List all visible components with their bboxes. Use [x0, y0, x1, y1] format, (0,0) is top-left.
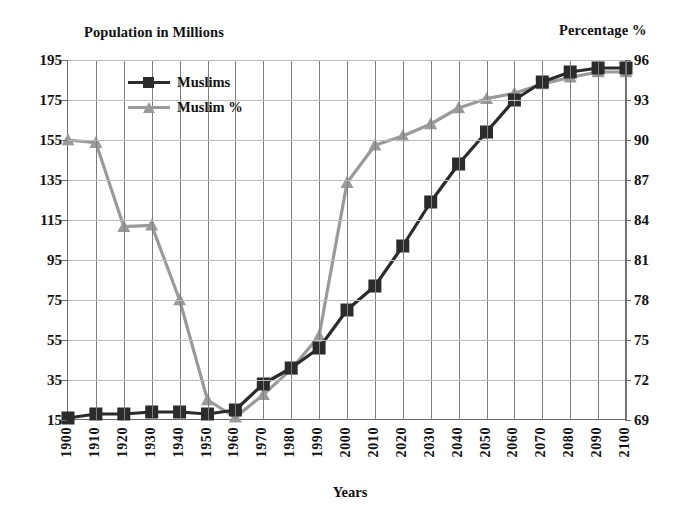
x-axis-tick-label: 1950 — [200, 427, 214, 457]
gridline-vertical — [570, 60, 571, 420]
x-axis-title-text: Years — [333, 484, 368, 500]
left-axis-tick-label: 155 — [14, 132, 62, 149]
legend-item-muslim-percent: Muslim % — [128, 95, 276, 120]
gridline-vertical — [626, 60, 627, 420]
x-axis-tick-label: 2050 — [479, 427, 493, 457]
right-axis-tick-label: 78 — [634, 292, 674, 309]
right-axis-tick-mark — [625, 60, 631, 61]
x-axis-tick-label: 1940 — [172, 427, 186, 457]
right-axis-tick-mark — [625, 220, 631, 221]
gridline-vertical — [459, 60, 460, 420]
right-axis-tick-label: 69 — [634, 412, 674, 429]
left-axis-tick-mark — [61, 100, 67, 101]
right-axis-tick-label: 81 — [634, 252, 674, 269]
triangle-marker-icon — [128, 101, 170, 115]
right-axis-tick-mark — [625, 140, 631, 141]
right-axis-tick-label: 87 — [634, 172, 674, 189]
right-axis-tick-label: 90 — [634, 132, 674, 149]
gridline-horizontal — [68, 140, 626, 141]
x-axis-tick-label: 1960 — [227, 427, 241, 457]
x-axis-tick-label: 2040 — [451, 427, 465, 457]
right-axis-tick-mark — [625, 260, 631, 261]
right-axis-tick-label: 72 — [634, 372, 674, 389]
left-axis-tick-label: 95 — [14, 252, 62, 269]
gridline-vertical — [487, 60, 488, 420]
left-axis-tick-label: 35 — [14, 372, 62, 389]
left-axis-title: Population in Millions — [84, 24, 224, 41]
right-axis-tick-mark — [625, 180, 631, 181]
right-axis-tick-mark — [625, 340, 631, 341]
right-axis-tick-label: 93 — [634, 92, 674, 109]
x-axis-title: Years — [0, 484, 684, 501]
right-axis-title: Percentage % — [559, 22, 647, 39]
x-axis-tick-label: 1900 — [60, 427, 74, 457]
gridline-vertical — [403, 60, 404, 420]
gridline-horizontal — [68, 340, 626, 341]
x-axis-tick-label: 2060 — [506, 427, 520, 457]
left-axis-tick-mark — [61, 420, 67, 421]
gridline-vertical — [514, 60, 515, 420]
left-axis-tick-mark — [61, 340, 67, 341]
x-axis-tick-label: 1990 — [311, 427, 325, 457]
x-axis-tick-label: 1920 — [116, 427, 130, 457]
left-axis-tick-mark — [61, 260, 67, 261]
x-axis-tick-label: 2030 — [423, 427, 437, 457]
x-axis-tick-label: 1910 — [88, 427, 102, 457]
gridline-vertical — [96, 60, 97, 420]
gridline-horizontal — [68, 380, 626, 381]
gridline-horizontal — [68, 260, 626, 261]
gridline-vertical — [291, 60, 292, 420]
x-axis-tick-label: 2090 — [590, 427, 604, 457]
population-percentage-chart: Population in Millions Percentage % Musl… — [0, 0, 684, 514]
right-axis-line — [625, 60, 626, 420]
x-axis-tick-label: 2020 — [395, 427, 409, 457]
square-marker-icon — [128, 76, 170, 90]
left-axis-tick-label: 55 — [14, 332, 62, 349]
left-axis-tick-label: 75 — [14, 292, 62, 309]
data-point-square — [62, 412, 75, 425]
x-axis-tick-label: 1930 — [144, 427, 158, 457]
gridline-vertical — [375, 60, 376, 420]
gridline-horizontal — [68, 60, 626, 61]
x-axis-tick-label: 2100 — [618, 427, 632, 457]
x-axis-tick-label: 2000 — [339, 427, 353, 457]
gridline-vertical — [124, 60, 125, 420]
right-axis-tick-mark — [625, 300, 631, 301]
right-axis-tick-label: 75 — [634, 332, 674, 349]
x-axis-tick-label: 2080 — [562, 427, 576, 457]
chart-legend: Muslims Muslim % — [128, 70, 276, 120]
x-axis-tick-label: 2070 — [534, 427, 548, 457]
x-axis-tick-label: 1980 — [283, 427, 297, 457]
left-axis-tick-mark — [61, 180, 67, 181]
left-axis-tick-label: 135 — [14, 172, 62, 189]
x-axis-tick-label: 1970 — [255, 427, 269, 457]
left-axis-tick-mark — [61, 380, 67, 381]
left-axis-tick-mark — [61, 140, 67, 141]
gridline-vertical — [431, 60, 432, 420]
right-axis-tick-mark — [625, 100, 631, 101]
left-axis-tick-mark — [61, 220, 67, 221]
right-axis-tick-label: 96 — [634, 52, 674, 69]
legend-label-muslims: Muslims — [177, 74, 230, 91]
gridline-horizontal — [68, 300, 626, 301]
right-axis-tick-mark — [625, 380, 631, 381]
left-axis-tick-label: 115 — [14, 212, 62, 229]
left-axis-tick-label: 195 — [14, 52, 62, 69]
left-axis-tick-mark — [61, 300, 67, 301]
left-axis-tick-label: 175 — [14, 92, 62, 109]
legend-label-muslim-percent: Muslim % — [177, 99, 243, 116]
gridline-vertical — [542, 60, 543, 420]
left-axis-tick-mark — [61, 60, 67, 61]
legend-item-muslims: Muslims — [128, 70, 276, 95]
gridline-vertical — [598, 60, 599, 420]
right-axis-tick-mark — [625, 420, 631, 421]
right-axis-tick-label: 84 — [634, 212, 674, 229]
gridline-vertical — [319, 60, 320, 420]
gridline-horizontal — [68, 180, 626, 181]
x-axis-tick-label: 2010 — [367, 427, 381, 457]
gridline-horizontal — [68, 220, 626, 221]
gridline-vertical — [347, 60, 348, 420]
left-axis-tick-label: 15 — [14, 412, 62, 429]
